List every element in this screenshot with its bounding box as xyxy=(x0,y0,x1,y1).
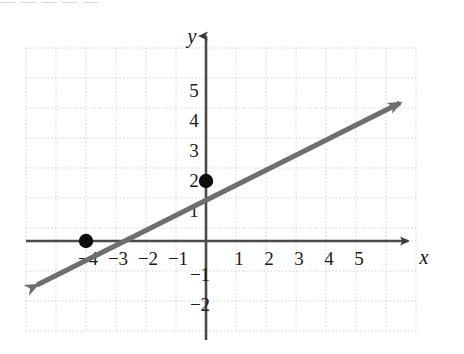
y-axis-label: y xyxy=(186,25,197,48)
x-tick-label: −1 xyxy=(168,248,188,269)
x-tick-label: 3 xyxy=(294,248,304,269)
graph-figure: y x −4 −3 −2 −1 1 2 3 4 5 5 4 3 2 1 −1 −… xyxy=(0,0,464,354)
axes xyxy=(26,36,408,340)
x-tick-label: 4 xyxy=(324,248,334,269)
y-tick-label: 4 xyxy=(189,110,199,131)
x-tick-labels: −4 −3 −2 −1 1 2 3 4 5 xyxy=(78,248,364,269)
x-axis-label: x xyxy=(419,246,429,268)
point-x-intercept xyxy=(79,234,93,248)
point-y-intercept xyxy=(199,174,213,188)
y-tick-label-hidden: 2 xyxy=(189,170,199,191)
y-tick-label: −2 xyxy=(190,294,210,315)
x-tick-label: −2 xyxy=(138,248,158,269)
x-tick-label: 1 xyxy=(234,248,244,269)
x-tick-label: −3 xyxy=(108,248,128,269)
coordinate-plane-svg: y x −4 −3 −2 −1 1 2 3 4 5 5 4 3 2 1 −1 −… xyxy=(0,0,464,354)
y-tick-label: 5 xyxy=(189,80,199,101)
y-tick-label: 3 xyxy=(189,140,199,161)
x-tick-label: 5 xyxy=(354,248,364,269)
x-tick-label: 2 xyxy=(264,248,274,269)
plotted-line xyxy=(37,103,400,285)
y-tick-label: −1 xyxy=(190,264,210,285)
